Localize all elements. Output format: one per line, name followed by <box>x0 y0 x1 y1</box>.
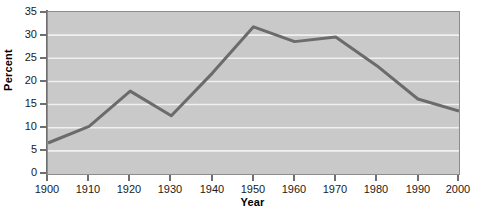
x-tick-label-2000: 2000 <box>435 183 481 195</box>
data-series-line <box>48 27 459 143</box>
x-tick-label-1930: 1930 <box>147 183 193 195</box>
x-tick-label-1940: 1940 <box>189 183 235 195</box>
gridlines <box>48 35 459 151</box>
y-axis-title: Percent <box>2 40 14 100</box>
plot-svg <box>48 12 459 174</box>
x-tick-mark <box>87 175 89 181</box>
x-tick-mark <box>457 175 459 181</box>
y-tick-label-text: 35 <box>0 6 37 17</box>
y-tick-label-text: 10 <box>0 121 37 132</box>
x-tick-label-1900: 1900 <box>24 183 70 195</box>
x-tick-label-text: 1960 <box>271 183 317 195</box>
x-tick-label-text: 1920 <box>106 183 152 195</box>
y-tick-label-30: 30 <box>0 29 37 40</box>
x-tick-mark <box>128 175 130 181</box>
x-tick-mark <box>417 175 419 181</box>
y-tick-label-10: 10 <box>0 121 37 132</box>
x-tick-mark <box>375 175 377 181</box>
y-tick-label-text: 5 <box>0 144 37 155</box>
x-tick-label-1920: 1920 <box>106 183 152 195</box>
x-tick-label-text: 1980 <box>353 183 399 195</box>
x-tick-mark <box>46 175 48 181</box>
x-tick-label-1910: 1910 <box>65 183 111 195</box>
x-tick-mark <box>252 175 254 181</box>
x-tick-label-text: 1900 <box>24 183 70 195</box>
x-tick-label-text: 1950 <box>230 183 276 195</box>
x-tick-label-text: 1970 <box>312 183 358 195</box>
x-tick-label-1960: 1960 <box>271 183 317 195</box>
x-tick-label-text: 1930 <box>147 183 193 195</box>
x-tick-mark <box>211 175 213 181</box>
x-tick-mark <box>334 175 336 181</box>
x-tick-label-1950: 1950 <box>230 183 276 195</box>
x-tick-mark <box>169 175 171 181</box>
y-tick-label-text: 30 <box>0 29 37 40</box>
x-tick-label-text: 1940 <box>189 183 235 195</box>
y-tick-label-35: 35 <box>0 6 37 17</box>
y-tick-label-5: 5 <box>0 144 37 155</box>
x-tick-label-1970: 1970 <box>312 183 358 195</box>
line-chart-figure: 0 5 10 15 20 25 30 35 <box>0 0 483 213</box>
x-tick-label-text: 2000 <box>435 183 481 195</box>
y-tick-label-0: 0 <box>0 167 37 178</box>
y-tick-label-text: 0 <box>0 167 37 178</box>
x-axis-title: Year <box>47 196 458 208</box>
x-tick-label-text: 1910 <box>65 183 111 195</box>
x-tick-mark <box>293 175 295 181</box>
plot-area <box>47 11 460 175</box>
x-tick-label-1980: 1980 <box>353 183 399 195</box>
